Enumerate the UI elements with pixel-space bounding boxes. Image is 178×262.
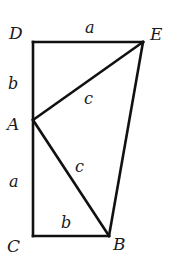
side-label-AC: a	[9, 172, 19, 191]
trapezoid-diagram: D E A C B a b c c a b	[0, 0, 178, 262]
side-label-AE: c	[84, 89, 93, 108]
vertex-label-A: A	[5, 114, 19, 134]
segment-AE	[33, 42, 143, 120]
vertex-label-C: C	[7, 236, 20, 256]
vertex-label-B: B	[112, 234, 126, 254]
segment-BE	[109, 42, 143, 236]
side-label-DA: b	[8, 74, 18, 93]
side-label-AB: c	[75, 157, 84, 176]
vertex-label-E: E	[149, 24, 163, 44]
edges	[33, 42, 143, 236]
vertex-label-D: D	[8, 23, 23, 43]
side-labels: a b c c a b	[8, 18, 95, 232]
side-label-DE: a	[85, 18, 95, 37]
side-label-CB: b	[61, 213, 71, 232]
